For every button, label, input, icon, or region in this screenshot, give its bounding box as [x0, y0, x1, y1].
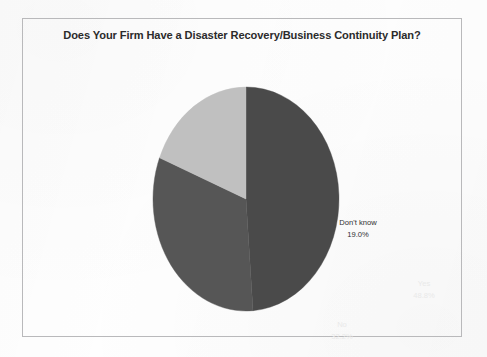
pie-slice-group [153, 87, 339, 311]
chart-title: Does Your Firm Have a Disaster Recovery/… [22, 29, 462, 41]
pie-chart-plot-area: Yes 48.8% No 32.2% Don't know 19.0% [152, 86, 340, 312]
pie-chart-svg [152, 86, 340, 312]
pie-slice-yes [246, 87, 339, 311]
chart-screenshot: Does Your Firm Have a Disaster Recovery/… [0, 0, 487, 357]
